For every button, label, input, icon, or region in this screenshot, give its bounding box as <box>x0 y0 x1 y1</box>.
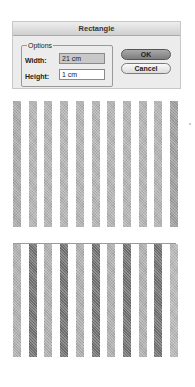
stripe <box>13 101 21 227</box>
rectangle-dialog: Rectangle Options Width: 21 cm Height: 1… <box>12 21 181 89</box>
stripe <box>60 244 68 357</box>
stripe <box>123 244 131 357</box>
stripe <box>154 101 162 227</box>
stripe-preview-top <box>0 101 195 227</box>
stripe <box>76 244 84 357</box>
stripe <box>44 101 52 227</box>
height-label: Height: <box>25 72 49 81</box>
stripe <box>154 244 162 357</box>
stripe <box>170 101 178 227</box>
stripe <box>170 244 178 357</box>
stripe <box>139 101 147 227</box>
height-field[interactable]: 1 cm <box>59 69 105 80</box>
stray-dot <box>189 123 191 125</box>
dialog-title: Rectangle <box>13 22 180 36</box>
stripe <box>92 101 100 227</box>
stripe <box>60 101 68 227</box>
stripe <box>123 101 131 227</box>
stripe-preview-bottom <box>0 244 195 357</box>
stripe <box>29 101 37 227</box>
stripe <box>44 244 52 357</box>
cancel-button[interactable]: Cancel <box>121 63 171 74</box>
stripe <box>13 244 21 357</box>
width-label: Width: <box>25 56 47 65</box>
options-legend: Options <box>27 41 53 50</box>
width-field[interactable]: 21 cm <box>59 53 105 64</box>
stripe <box>139 244 147 357</box>
ok-button[interactable]: OK <box>121 49 171 60</box>
stripe <box>92 244 100 357</box>
stripe <box>107 244 115 357</box>
stripe <box>107 101 115 227</box>
stripe <box>29 244 37 357</box>
options-group: Options Width: 21 cm Height: 1 cm <box>21 45 113 87</box>
stripe <box>76 101 84 227</box>
